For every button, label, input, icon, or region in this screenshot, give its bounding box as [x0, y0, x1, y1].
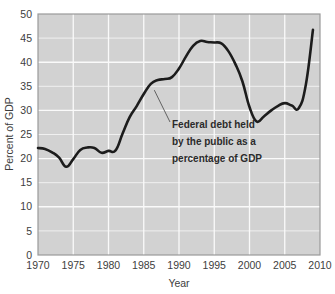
y-tick-label: 35	[20, 80, 32, 92]
y-tick-label: 45	[20, 32, 32, 44]
y-tick-label: 10	[20, 200, 32, 212]
y-tick-label: 20	[20, 152, 32, 164]
x-axis-title: Year	[168, 277, 190, 289]
x-tick-label: 1985	[132, 259, 156, 271]
x-axis-tick-labels: 197019751980198519901995200020052010	[26, 259, 332, 271]
y-tick-label: 5	[26, 225, 32, 237]
y-tick-label: 30	[20, 104, 32, 116]
annotation-line-1: Federal debt held	[172, 119, 255, 130]
y-axis-title: Percent of GDP	[3, 97, 15, 171]
y-tick-label: 15	[20, 176, 32, 188]
y-tick-label: 25	[20, 128, 32, 140]
x-tick-label: 1970	[26, 259, 50, 271]
line-chart: 05101520253035404550 1970197519801985199…	[0, 0, 335, 294]
x-tick-label: 2005	[273, 259, 297, 271]
x-tick-label: 2010	[308, 259, 332, 271]
annotation-line-2: by the public as a	[172, 136, 256, 147]
chart-figure: 05101520253035404550 1970197519801985199…	[0, 0, 335, 294]
x-tick-label: 2000	[238, 259, 262, 271]
x-tick-label: 1995	[203, 259, 227, 271]
x-tick-label: 1980	[97, 259, 121, 271]
y-axis-tick-labels: 05101520253035404550	[20, 8, 32, 261]
annotation-line-3: percentage of GDP	[172, 153, 262, 164]
y-tick-label: 50	[20, 8, 32, 20]
x-tick-label: 1990	[167, 259, 191, 271]
y-tick-label: 40	[20, 56, 32, 68]
x-tick-label: 1975	[62, 259, 86, 271]
